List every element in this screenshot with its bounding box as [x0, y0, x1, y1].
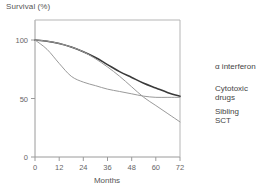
x-tick-label-36: 36 [103, 163, 111, 172]
y-tick-label-50: 50 [20, 95, 28, 104]
legend-label-cytotoxic-drugs: Cytotoxic [215, 84, 248, 93]
x-axis-ticks [35, 157, 180, 161]
series-line-interferon [35, 40, 180, 96]
chart-figure: Survival (%) 0 12 24 36 48 [0, 0, 258, 188]
y-tick-label-100: 100 [15, 36, 28, 45]
legend-label-sibling-sct: Sibling [215, 107, 239, 116]
data-series-layer [35, 40, 180, 122]
series-line-sibling-sct [35, 40, 180, 122]
legend-label-sibling-sct-line2: SCT [215, 116, 231, 125]
x-axis-title: Months [94, 176, 120, 185]
y-axis-ticks [31, 40, 35, 157]
x-tick-label-24: 24 [79, 163, 87, 172]
legend-label-alpha-interferon: α interferon [215, 62, 256, 71]
x-tick-label-60: 60 [152, 163, 160, 172]
x-tick-label-0: 0 [33, 163, 37, 172]
x-tick-label-12: 12 [55, 163, 63, 172]
y-tick-label-0: 0 [24, 153, 28, 162]
legend-label-cytotoxic-drugs-line2: drugs [215, 93, 235, 102]
x-tick-label-72: 72 [176, 163, 184, 172]
x-tick-label-48: 48 [128, 163, 136, 172]
